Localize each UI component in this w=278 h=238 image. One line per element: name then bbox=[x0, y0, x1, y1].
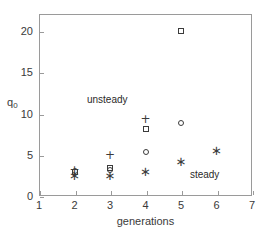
x-axis-tick bbox=[147, 191, 148, 195]
annotation-unsteady: unsteady bbox=[87, 94, 128, 105]
marker-asterisk-icon: ∗ bbox=[105, 169, 116, 182]
x-axis-tick bbox=[40, 191, 41, 195]
x-axis-tick bbox=[182, 191, 183, 195]
marker-asterisk-icon: ∗ bbox=[140, 165, 151, 178]
x-axis-tick-label: 2 bbox=[63, 199, 87, 212]
y-axis-tick-label: 0 bbox=[7, 190, 33, 202]
x-axis-tick bbox=[76, 191, 77, 195]
y-axis-tick-label: 20 bbox=[7, 25, 33, 37]
x-axis-tick bbox=[218, 191, 219, 195]
marker-asterisk-icon: ∗ bbox=[69, 168, 80, 181]
y-axis-label: q0 bbox=[7, 96, 18, 108]
x-axis-tick-label: 3 bbox=[98, 199, 122, 212]
marker-asterisk-icon: ∗ bbox=[176, 155, 187, 168]
annotation-steady: steady bbox=[190, 169, 219, 180]
scatter-plot-figure: 123456705101520 +++∗∗∗∗∗ unsteadysteady … bbox=[0, 0, 278, 238]
x-axis-label: generations bbox=[39, 215, 252, 227]
marker-circle-icon bbox=[143, 149, 149, 155]
y-axis-tick bbox=[40, 73, 44, 74]
y-axis-tick bbox=[40, 156, 44, 157]
x-axis-tick-label: 7 bbox=[240, 199, 264, 212]
y-axis-tick bbox=[40, 197, 44, 198]
y-axis-label-subscript: 0 bbox=[13, 101, 17, 110]
marker-asterisk-icon: ∗ bbox=[211, 143, 222, 156]
marker-circle-icon bbox=[178, 120, 184, 126]
x-axis-tick-label: 6 bbox=[205, 199, 229, 212]
marker-plus-icon: + bbox=[105, 149, 115, 161]
y-axis-tick-label: 15 bbox=[7, 66, 33, 78]
x-axis-tick-label: 5 bbox=[169, 199, 193, 212]
x-axis-tick bbox=[111, 191, 112, 195]
marker-plus-icon: + bbox=[140, 113, 150, 125]
marker-square-icon bbox=[143, 126, 149, 132]
y-axis-tick bbox=[40, 32, 44, 33]
marker-square-icon bbox=[178, 28, 184, 34]
y-axis-tick bbox=[40, 115, 44, 116]
y-axis-tick-label: 5 bbox=[7, 149, 33, 161]
y-axis-tick-label: 10 bbox=[7, 108, 33, 120]
x-axis-tick bbox=[253, 191, 254, 195]
x-axis-tick-label: 4 bbox=[134, 199, 158, 212]
